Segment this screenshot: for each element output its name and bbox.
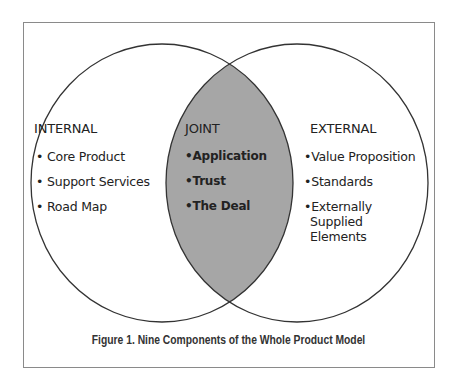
internal-item: • Road Map xyxy=(36,199,150,214)
external-item: Elements xyxy=(304,229,415,244)
joint-list: •Application •Trust •The Deal xyxy=(185,149,267,214)
external-title: EXTERNAL xyxy=(310,121,376,136)
joint-item: •Trust xyxy=(185,174,267,189)
internal-item: • Core Product xyxy=(36,149,150,164)
internal-title: INTERNAL xyxy=(34,121,97,136)
internal-list: • Core Product • Support Services • Road… xyxy=(36,149,150,214)
external-list: •Value Proposition •Standards •Externall… xyxy=(304,149,415,244)
external-item: Supplied xyxy=(304,214,415,229)
external-item: •Externally xyxy=(304,199,415,214)
joint-title: JOINT xyxy=(185,121,220,136)
figure-caption: Figure 1. Nine Components of the Whole P… xyxy=(32,333,425,347)
internal-item: • Support Services xyxy=(36,174,150,189)
joint-item: •Application xyxy=(185,149,267,164)
joint-item: •The Deal xyxy=(185,199,267,214)
external-item: •Standards xyxy=(304,174,415,189)
external-item: •Value Proposition xyxy=(304,149,415,164)
